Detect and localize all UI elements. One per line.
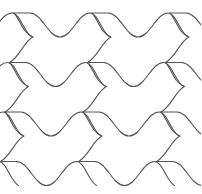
tile-side-edge — [88, 13, 112, 63]
tile-side-edge — [83, 63, 107, 113]
tile-top-edge — [0, 112, 23, 136]
tile-top-edge — [161, 112, 201, 136]
tile-side-edge — [157, 112, 181, 162]
tile-side-edge — [166, 13, 190, 63]
tile-top-edge — [170, 13, 201, 37]
tile-top-edge — [157, 162, 202, 186]
tessellation-figure — [0, 0, 201, 194]
tile-side-edge — [10, 13, 34, 63]
tile-top-edge — [166, 63, 202, 87]
bird-tessellation-drawing — [0, 0, 201, 194]
tile-top-edge — [0, 162, 19, 186]
tile-side-edge — [161, 63, 185, 113]
tile-side-edge — [1, 112, 25, 162]
tile-side-edge — [5, 63, 29, 113]
tile-side-edge — [79, 112, 103, 162]
